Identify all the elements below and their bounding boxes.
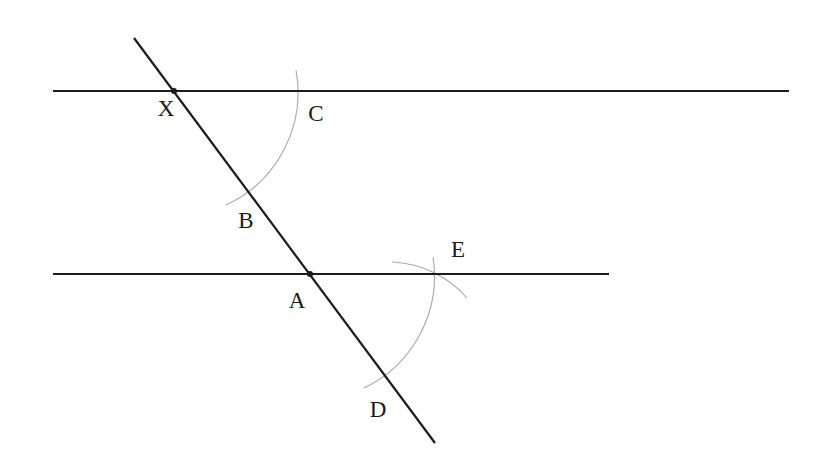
- label-c: C: [308, 101, 323, 126]
- geometry-diagram: X C B A E D: [0, 0, 820, 461]
- arc-center-D: [392, 262, 467, 298]
- construction-arcs: [226, 70, 467, 388]
- label-x: X: [158, 96, 175, 121]
- label-a: A: [289, 288, 306, 313]
- transversal: [134, 38, 435, 443]
- point-a: [307, 271, 313, 277]
- arc-center-A: [364, 257, 434, 388]
- point-x: [171, 88, 177, 94]
- label-e: E: [451, 237, 465, 262]
- label-b: B: [238, 208, 253, 233]
- point-labels: X C B A E D: [158, 96, 465, 422]
- label-d: D: [370, 397, 387, 422]
